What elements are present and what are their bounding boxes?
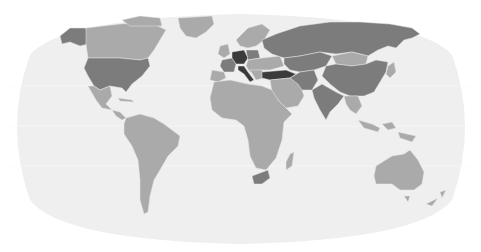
ocean: [17, 14, 465, 244]
region-alaska[interactable]: [60, 28, 88, 46]
world-map: [0, 0, 481, 252]
region-arctic-islands[interactable]: [122, 16, 162, 26]
map-svg: [0, 0, 481, 252]
